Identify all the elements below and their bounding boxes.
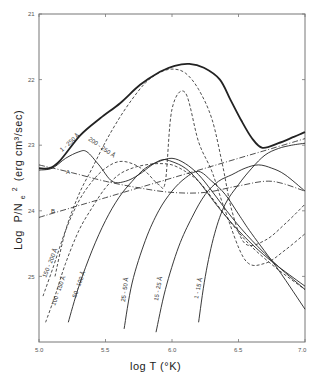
x-tick-6-5: 6.5: [234, 347, 243, 353]
curve-b: [39, 139, 305, 218]
x-tick-5-5: 5.5: [101, 347, 110, 353]
curve-1-15: [199, 143, 305, 322]
x-tick-5-0: 5.0: [35, 347, 44, 353]
y-title-sub: e: [19, 195, 26, 199]
curve-150-200: [43, 91, 305, 296]
curve-dashed-envelope: [55, 69, 305, 276]
label-100-150: 100 - 150 Å: [50, 275, 66, 306]
curve-1-250: [39, 64, 305, 169]
label-50-100: 50 - 100 Å: [71, 270, 86, 298]
x-axis-title: log T (°K): [130, 360, 181, 372]
y-tick-22: 22: [28, 77, 35, 83]
label-b: B: [51, 208, 55, 214]
y-title-units: (erg cm³/sec): [12, 110, 24, 181]
y-title-sup: 2: [11, 187, 18, 191]
label-25-50: 25 - 50 Å: [120, 277, 129, 302]
x-tick-6-0: 6.0: [168, 347, 177, 353]
y-tick-24: 24: [28, 208, 35, 214]
y-title-log: Log: [12, 230, 24, 250]
svg-text:Log P/N e 2: Log P/N e 2 (erg cm³/sec): [7, 110, 27, 250]
x-tick-7-0: 7.0: [298, 347, 307, 353]
label-a: A: [66, 169, 70, 175]
label-200-250: 200 - 250 Å: [87, 136, 116, 159]
curve-50-100: [68, 158, 305, 322]
curve-a: [39, 165, 305, 193]
emission-chart: 21 22 23 24 25 5.0 5.5 6.0 6.5 7.0 log T…: [0, 0, 319, 376]
curve-15-25: [156, 165, 305, 332]
y-tick-25: 25: [28, 274, 35, 280]
label-15-25: 15 - 25 Å: [153, 276, 163, 301]
y-title-ratio: P/N: [12, 203, 24, 223]
y-tick-23: 23: [28, 142, 35, 148]
y-axis-title: Log P/N e 2 (erg cm³/sec): [7, 110, 27, 250]
y-tick-21: 21: [28, 11, 35, 17]
